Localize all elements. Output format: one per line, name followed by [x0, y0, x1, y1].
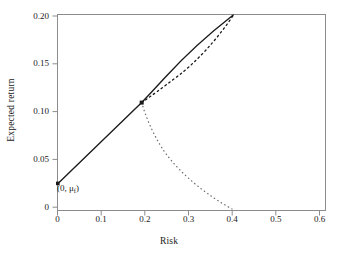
tangency-point-marker	[140, 101, 144, 105]
frontier-lower-branch-curve	[142, 103, 232, 210]
risk-free-point-annotation: (0, μf)	[57, 183, 79, 193]
risk-free-annotation-suffix: )	[76, 183, 79, 193]
x-tick-label-5: 0.5	[259, 214, 293, 224]
x-tick-label-6: 0.6	[303, 214, 337, 224]
y-tick-label-2: 0.10	[19, 106, 49, 116]
x-tick-label-4: 0.4	[215, 214, 249, 224]
x-tick-label-3: 0.3	[172, 214, 206, 224]
chart-figure: 0 0.1 0.2 0.3 0.4 0.5 0.6 0.20 0.15 0.10…	[0, 0, 338, 259]
risk-free-annotation-prefix: (0, μ	[57, 183, 74, 193]
x-tick-label-0: 0	[41, 214, 75, 224]
y-tick-label-4: 0	[19, 202, 49, 212]
x-tick-label-2: 0.2	[128, 214, 162, 224]
risk-free-annotation-subscript: f	[74, 187, 76, 194]
y-tick-label-3: 0.05	[19, 154, 49, 164]
efficient-frontier-curve	[142, 16, 234, 103]
y-axis-title: Expected return	[6, 45, 16, 175]
x-tick-label-1: 0.1	[84, 214, 118, 224]
y-axis-ticks	[53, 16, 58, 207]
y-tick-label-0: 0.20	[19, 11, 49, 21]
y-tick-label-1: 0.15	[19, 58, 49, 68]
x-axis-title: Risk	[0, 236, 338, 246]
capital-market-line	[58, 15, 233, 184]
